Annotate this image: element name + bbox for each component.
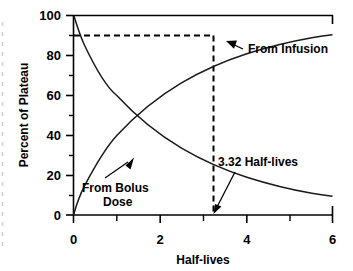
annotation-from-infusion: From Infusion	[226, 41, 328, 57]
x-axis-title: Half-lives	[176, 253, 230, 267]
y-tick-label-100: 100	[39, 8, 61, 23]
x-tick-label-0: 0	[70, 232, 77, 247]
x-tick-label-6: 6	[329, 232, 336, 247]
annotation-label-from-infusion: From Infusion	[248, 42, 328, 56]
x-tick-label-2: 2	[157, 232, 164, 247]
chart-figure: 100 80 60 40 20 0 0 2 4 6 Half-lives Per…	[0, 0, 353, 271]
arrowhead-from-infusion	[226, 41, 237, 49]
annotation-label-from-bolus-line2: Dose	[103, 195, 133, 209]
y-tick-label-80: 80	[47, 48, 61, 63]
y-axis-title: Percent of Plateau	[17, 63, 31, 168]
x-axis-minor-ticks	[117, 215, 290, 221]
y-tick-label-0: 0	[54, 208, 61, 223]
chart-plot-area: 100 80 60 40 20 0 0 2 4 6 Half-lives Per…	[0, 0, 353, 271]
annotation-label-3.32-halflives: 3.32 Half-lives	[218, 155, 298, 169]
annotation-leader-3.32-halflives	[217, 172, 235, 207]
arrowhead-3.32-halflives	[214, 204, 222, 214]
y-tick-label-40: 40	[47, 128, 61, 143]
y-axis-minor-ticks	[69, 36, 73, 196]
y-tick-label-60: 60	[47, 88, 61, 103]
annotation-leader-from-bolus-dose	[105, 162, 128, 178]
annotation-3.32-halflives: 3.32 Half-lives	[214, 155, 299, 214]
x-tick-label-4: 4	[243, 232, 251, 247]
annotation-from-bolus-dose: From Bolus Dose	[82, 158, 149, 210]
y-tick-label-20: 20	[47, 168, 61, 183]
annotation-label-from-bolus-line1: From Bolus	[82, 181, 149, 195]
